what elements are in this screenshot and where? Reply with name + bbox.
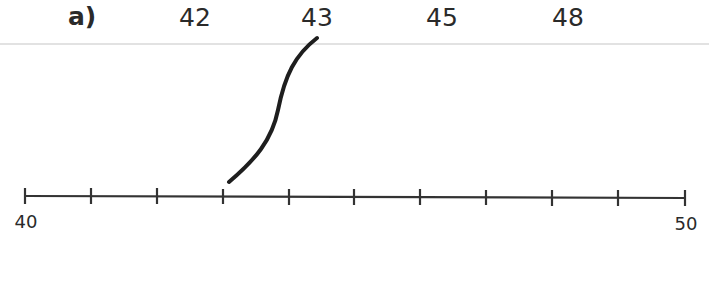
start-label: 40	[15, 211, 38, 232]
number-line	[0, 0, 709, 282]
connector-line[interactable]	[229, 38, 317, 182]
end-label: 50	[675, 213, 698, 234]
